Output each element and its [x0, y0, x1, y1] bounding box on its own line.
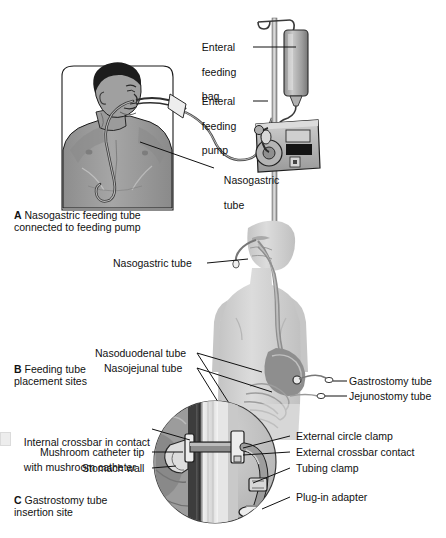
caption-panel-c: C Gastrostomy tube insertion site: [14, 494, 107, 518]
label-external-crossbar-contact: External crossbar contact: [296, 446, 414, 458]
label-nasoduodenal-tube: Nasoduodenal tube: [95, 347, 186, 359]
panel-c-illustration: [150, 401, 276, 523]
caption-panel-b: B Feeding tube placement sites: [14, 363, 87, 387]
label-nasojejunal-tube: Nasojejunal tube: [104, 362, 182, 374]
label-nasogastric-tube-a: Nasogastric tube: [218, 162, 279, 211]
label-stomach-wall: Stomach wall: [82, 462, 144, 474]
caption-panel-a: A Nasogastric feeding tube connected to …: [14, 209, 141, 233]
label-mushroom-catheter-tip: Mushroom catheter tip: [40, 446, 144, 458]
label-jejunostomy-tube: Jejunostomy tube: [349, 390, 431, 402]
label-tubing-clamp: Tubing clamp: [296, 462, 359, 474]
page-margin-artifact: [0, 432, 11, 446]
panel-a-illustration: [62, 18, 320, 223]
label-external-circle-clamp: External circle clamp: [296, 430, 393, 442]
label-enteral-feeding-pump: Enteral feeding pump: [196, 83, 236, 156]
label-nasogastric-tube-b: Nasogastric tube: [113, 257, 192, 269]
label-gastrostomy-tube: Gastrostomy tube: [349, 375, 432, 387]
label-plug-in-adapter: Plug-in adapter: [296, 491, 367, 503]
